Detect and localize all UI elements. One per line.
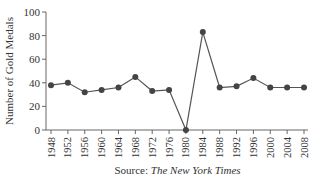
data-point-marker (82, 89, 88, 95)
y-tick-label: 40 (29, 77, 41, 89)
x-tick-label: 1988 (214, 137, 225, 158)
data-point-marker (132, 74, 138, 80)
x-tick-label: 1980 (180, 137, 191, 158)
x-tick-label: 2008 (299, 137, 310, 158)
y-tick-label: 0 (35, 124, 41, 136)
data-point-marker (115, 85, 121, 91)
x-tick-label: 1964 (113, 136, 124, 158)
data-point-marker (267, 85, 273, 91)
line-chart: 020406080100 194819521956196019641968197… (0, 0, 315, 182)
data-point-marker (250, 75, 256, 81)
x-tick-label: 1948 (46, 137, 57, 158)
x-tick-label: 1956 (79, 137, 90, 158)
data-point-marker (217, 85, 223, 91)
x-tick-label: 1960 (96, 137, 107, 158)
y-tick-label: 20 (29, 100, 41, 112)
data-point-marker (166, 87, 172, 93)
y-tick-label: 100 (24, 6, 41, 18)
data-point-marker (149, 88, 155, 94)
data-point-marker (200, 29, 206, 35)
data-point-marker (301, 85, 307, 91)
x-tick-label: 1996 (248, 137, 259, 158)
y-axis: 020406080100 (24, 6, 47, 136)
data-point-marker (65, 80, 71, 86)
x-tick-label: 1976 (164, 137, 175, 158)
x-tick-label: 1984 (197, 136, 208, 158)
data-point-marker (234, 83, 240, 89)
source-prefix: Source: (114, 164, 150, 176)
y-tick-label: 60 (29, 53, 41, 65)
x-tick-label: 2004 (282, 136, 293, 158)
data-point-marker (48, 82, 54, 88)
y-tick-label: 80 (29, 30, 41, 42)
data-point-marker (183, 127, 189, 133)
data-series (48, 29, 307, 133)
series-line (51, 32, 304, 130)
x-tick-label: 1952 (62, 137, 73, 158)
y-axis-label: Number of Gold Medals (3, 17, 15, 125)
source-title: The New York Times (151, 164, 241, 176)
x-tick-label: 2000 (265, 137, 276, 158)
source-caption: Source: The New York Times (0, 164, 315, 176)
data-point-marker (99, 87, 105, 93)
x-tick-label: 1972 (147, 137, 158, 158)
x-tick-label: 1968 (130, 137, 141, 158)
x-tick-label: 1992 (231, 137, 242, 158)
data-point-marker (284, 85, 290, 91)
x-axis: 1948195219561960196419681972197619801984… (46, 130, 310, 158)
